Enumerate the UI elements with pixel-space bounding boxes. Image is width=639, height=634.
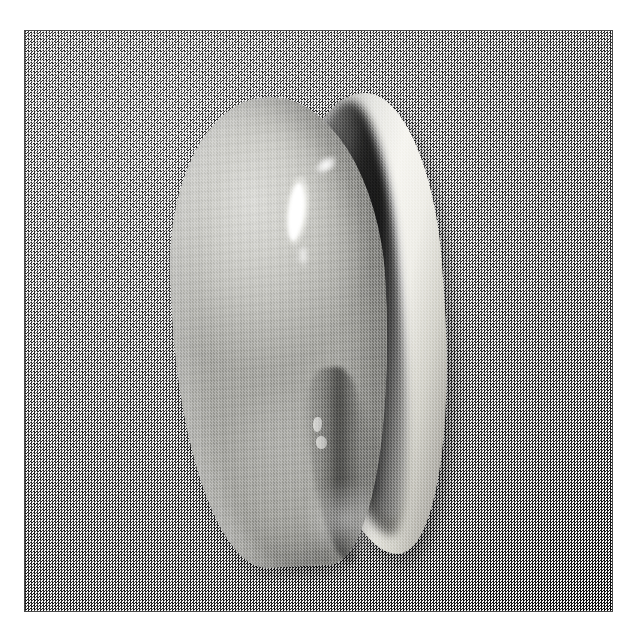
photograph-frame xyxy=(24,30,613,612)
page-root xyxy=(0,0,639,634)
shell-specular-tail xyxy=(297,245,309,271)
cowrie-shell xyxy=(25,31,612,611)
